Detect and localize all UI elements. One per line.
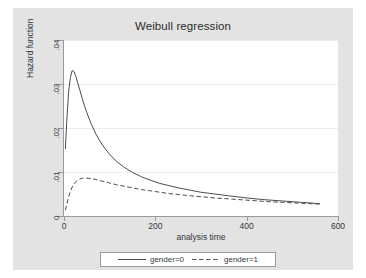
chart-figure: Weibull regression 0.01.02.03.04 0200400… [13,8,353,270]
chart-title: Weibull regression [13,20,353,32]
legend-item: gender=0 [118,255,184,264]
x-tick-label: 0 [44,221,84,231]
plot-curves [64,40,338,216]
legend-label: gender=0 [150,255,184,264]
y-tick-label: .04 [52,40,61,80]
legend-key-dashed [192,256,220,263]
y-tick-label: .01 [52,172,61,212]
series-line-gender=0 [65,70,319,203]
y-tick-label: .03 [52,84,61,124]
x-tick-label: 200 [135,221,175,231]
series-line-gender=1 [65,178,319,210]
legend-item: gender=1 [192,255,258,264]
x-tick-label: 600 [318,221,358,231]
chart-legend: gender=0 gender=1 [100,252,276,267]
y-tick-label: .02 [52,128,61,168]
x-axis-title: analysis time [64,232,338,242]
x-tick-label: 400 [227,221,267,231]
y-axis-title: Hazard function [25,64,35,78]
y-axis-line [63,40,64,217]
legend-key-solid [118,256,146,263]
legend-label: gender=1 [224,255,258,264]
plot-area [64,40,338,216]
x-axis-line [63,216,339,217]
